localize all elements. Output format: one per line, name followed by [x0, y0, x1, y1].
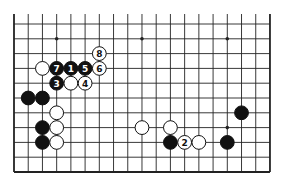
star-point — [226, 126, 230, 130]
black-stone-circle — [36, 91, 50, 105]
white-stone-circle — [36, 62, 50, 76]
black-stone-circle — [235, 106, 249, 120]
black-stone-circle — [21, 91, 35, 105]
move-number-label: 4 — [82, 79, 88, 89]
white-stone-circle — [50, 121, 64, 135]
move-number-label: 8 — [96, 49, 102, 59]
move-number-label: 5 — [82, 64, 88, 74]
white-stone — [50, 106, 64, 120]
white-stone-circle — [64, 76, 78, 90]
move-number-label: 1 — [68, 64, 74, 74]
black-stone — [36, 136, 50, 150]
black-stone-7: 7 — [50, 62, 64, 76]
black-stone — [21, 91, 35, 105]
black-stone-circle — [220, 136, 234, 150]
black-stone — [235, 106, 249, 120]
move-number-label: 2 — [182, 138, 188, 148]
white-stone-circle — [50, 136, 64, 150]
white-stone — [50, 136, 64, 150]
white-stone — [135, 121, 149, 135]
white-stone-4: 4 — [78, 76, 92, 90]
black-stone — [164, 136, 178, 150]
move-number-label: 3 — [54, 79, 60, 89]
go-board-diagram: 87156342 — [0, 0, 282, 186]
move-number-label: 6 — [96, 64, 102, 74]
white-stone-circle — [50, 106, 64, 120]
black-stone — [220, 136, 234, 150]
white-stone-circle — [135, 121, 149, 135]
black-stone-1: 1 — [64, 62, 78, 76]
white-stone-8: 8 — [92, 47, 106, 61]
white-stone — [36, 62, 50, 76]
white-stone-2: 2 — [178, 136, 192, 150]
black-stone-3: 3 — [50, 76, 64, 90]
black-stone-circle — [36, 121, 50, 135]
star-point — [140, 37, 144, 41]
black-stone-circle — [164, 136, 178, 150]
white-stone — [164, 121, 178, 135]
white-stone-6: 6 — [92, 62, 106, 76]
white-stone-circle — [164, 121, 178, 135]
white-stone — [64, 76, 78, 90]
white-stone — [50, 121, 64, 135]
star-point — [55, 37, 59, 41]
white-stone-circle — [192, 136, 206, 150]
black-stone-5: 5 — [78, 62, 92, 76]
black-stone — [36, 121, 50, 135]
black-stone — [36, 91, 50, 105]
move-number-label: 7 — [54, 64, 60, 74]
star-point — [226, 37, 230, 41]
white-stone — [192, 136, 206, 150]
black-stone-circle — [36, 136, 50, 150]
